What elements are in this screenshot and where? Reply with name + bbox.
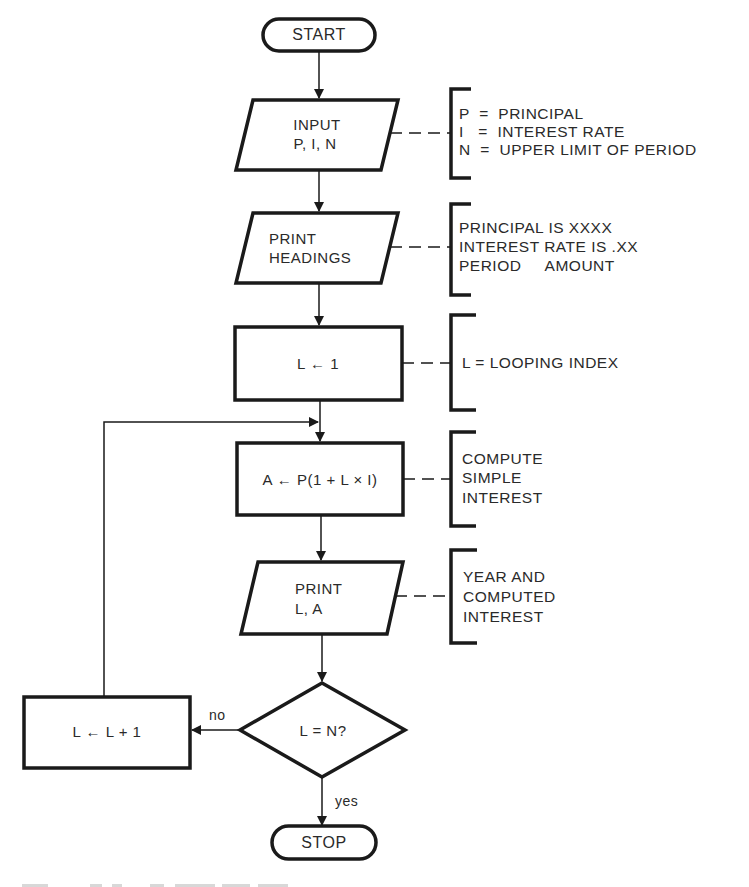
print-annotation-line1: YEAR AND (463, 568, 545, 587)
edge-increment-compute (104, 422, 318, 697)
headings-label-line1: PRINT (269, 229, 317, 248)
compute-label: A ← P(1 + L × I) (263, 470, 378, 489)
headings-annotation-line2: INTEREST RATE IS .XX (459, 238, 638, 257)
input-annotation-line2: I = INTEREST RATE (459, 123, 625, 142)
edge-label-no: no (209, 706, 226, 725)
flowchart-canvas: START INPUT P, I, N PRINT HEADINGS L ← 1… (0, 0, 749, 887)
compute-annotation-line1: COMPUTE (462, 450, 543, 469)
print-shape (241, 562, 403, 634)
start-label: START (292, 25, 345, 44)
init-label: L ← 1 (297, 354, 339, 373)
print-annotation-line2: COMPUTED (463, 588, 556, 607)
edge-label-yes: yes (335, 792, 358, 811)
flowchart-shapes (0, 0, 749, 887)
print-label-line2: L, A (295, 599, 323, 618)
input-label-line2: P, I, N (293, 134, 336, 153)
headings-label-line2: HEADINGS (269, 248, 351, 267)
increment-label: L ← L + 1 (73, 722, 142, 741)
input-annotation-line1: P = PRINCIPAL (459, 105, 584, 124)
compute-annotation-line3: INTEREST (462, 489, 543, 508)
headings-annotation-line1: PRINCIPAL IS XXXX (459, 219, 612, 238)
print-annotation-line3: INTEREST (463, 608, 544, 627)
input-label-line1: INPUT (293, 115, 341, 134)
print-label-line1: PRINT (295, 579, 343, 598)
input-annotation-line3: N = UPPER LIMIT OF PERIOD (459, 141, 697, 160)
stop-label: STOP (301, 833, 346, 852)
headings-annotation-line3: PERIOD AMOUNT (459, 257, 615, 276)
compute-annotation-line2: SIMPLE (462, 469, 522, 488)
decision-label: L = N? (299, 721, 346, 740)
init-annotation-line1: L = LOOPING INDEX (462, 354, 619, 373)
